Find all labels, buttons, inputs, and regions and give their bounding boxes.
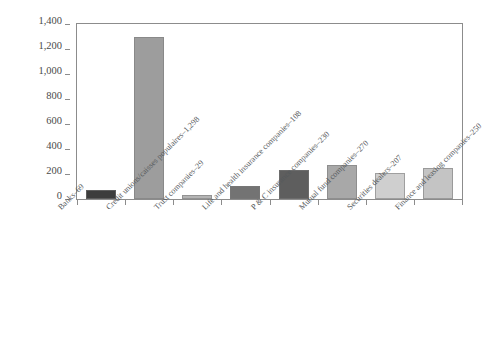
- y-axis-tick-label: 800: [46, 91, 62, 102]
- y-axis-tick-label: 1,400: [38, 16, 62, 27]
- bar-chart-figure: 1,4001,2001,0008006004002000 Banks–69Cre…: [0, 0, 482, 362]
- bar-slot: [77, 24, 125, 199]
- y-axis: 1,4001,2001,0008006004002000: [0, 23, 70, 200]
- y-axis-tick-mark: [65, 99, 70, 100]
- y-axis-tick-label: 1,000: [38, 66, 62, 77]
- y-axis-tick-label: 600: [46, 116, 62, 127]
- y-axis-tick-label: 1,200: [38, 41, 62, 52]
- x-axis-labels: Banks–69Credit unions/caisses populaires…: [0, 200, 482, 362]
- y-axis-tick-mark: [65, 174, 70, 175]
- y-axis-tick-label: 400: [46, 141, 62, 152]
- y-axis-tick-mark: [65, 149, 70, 150]
- bars-layer: [77, 24, 462, 199]
- y-axis-tick-mark: [65, 124, 70, 125]
- y-axis-tick-label: 200: [46, 166, 62, 177]
- y-axis-tick-mark: [65, 24, 70, 25]
- y-axis-tick-mark: [65, 49, 70, 50]
- y-axis-tick-mark: [65, 74, 70, 75]
